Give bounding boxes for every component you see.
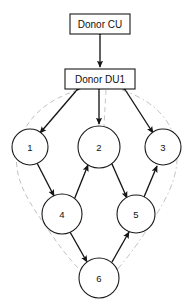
guide-right-dashdot-curve <box>106 90 177 281</box>
node-4-label: 4 <box>59 209 64 220</box>
node-6[interactable]: 6 <box>79 258 119 298</box>
box-donor-du1[interactable]: Donor DU1 <box>65 69 135 89</box>
guide-path-group <box>16 90 177 281</box>
diagram-canvas: Donor CU Donor DU1 1 2 3 4 5 <box>0 0 193 307</box>
node-4[interactable]: 4 <box>42 194 82 234</box>
node-3[interactable]: 3 <box>145 129 181 165</box>
node-2[interactable]: 2 <box>78 126 120 168</box>
node-6-label: 6 <box>96 273 101 284</box>
edge-node4-node2 <box>74 165 88 200</box>
donor-cu-label: Donor CU <box>78 19 122 30</box>
donor-du1-label: Donor DU1 <box>75 74 125 85</box>
node-2-label: 2 <box>96 142 101 153</box>
edge-node2-node5 <box>112 164 127 198</box>
node-5[interactable]: 5 <box>117 195 155 233</box>
guide-left-dashed-curve <box>16 90 92 281</box>
edge-du1-node1 <box>40 91 76 133</box>
box-donor-cu[interactable]: Donor CU <box>70 14 130 34</box>
node-3-label: 3 <box>160 142 165 153</box>
node-1-label: 1 <box>27 142 32 153</box>
edge-node6-node5 <box>112 232 129 262</box>
diagram-svg: Donor CU Donor DU1 1 2 3 4 5 <box>0 0 193 307</box>
node-5-label: 5 <box>133 209 138 220</box>
edge-node4-node6 <box>70 232 87 262</box>
edge-node1-node4 <box>37 163 54 196</box>
edge-node5-node3 <box>144 166 157 197</box>
node-1[interactable]: 1 <box>12 129 48 165</box>
